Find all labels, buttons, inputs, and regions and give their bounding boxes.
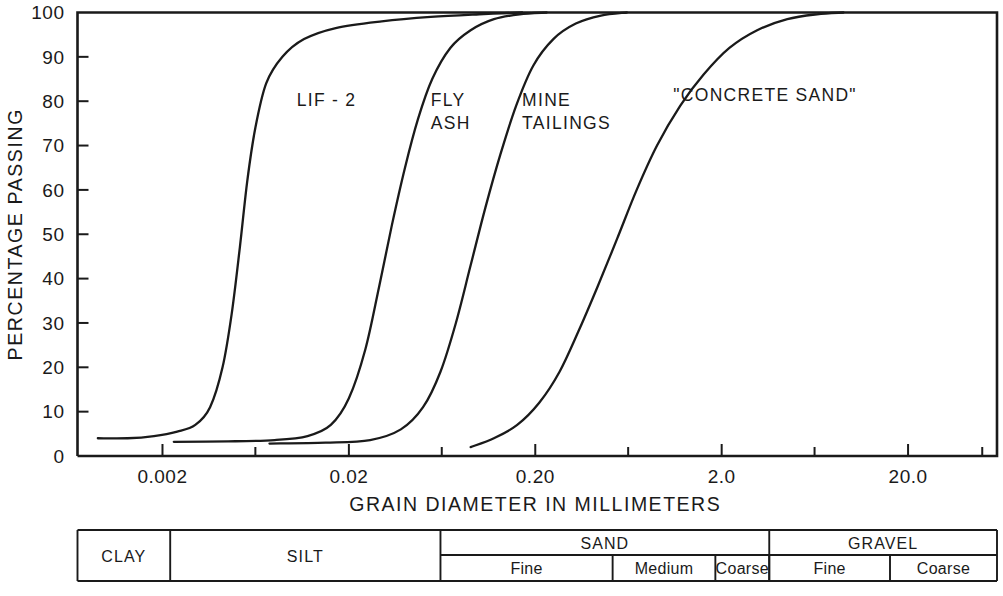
- series-label-group: LIF - 2: [297, 90, 357, 110]
- series-label: ASH: [431, 113, 471, 133]
- y-tick-label: 90: [42, 47, 64, 68]
- series-label: FLY: [431, 90, 466, 110]
- y-tick-label: 20: [42, 357, 64, 378]
- series-label: MINE: [522, 90, 571, 110]
- x-tick-label: 20.0: [889, 466, 928, 487]
- y-tick-label: 50: [42, 224, 64, 245]
- series-label-group: MINETAILINGS: [522, 90, 611, 133]
- y-tick-label: 70: [42, 135, 64, 156]
- curve-group: [98, 13, 844, 448]
- x-tick-label: 0.02: [329, 466, 368, 487]
- y-tick-label: 0: [53, 446, 64, 467]
- series-label-group: FLYASH: [431, 90, 471, 133]
- series-label: TAILINGS: [522, 113, 611, 133]
- y-tick-label: 100: [31, 2, 64, 23]
- table-major-label: SAND: [580, 535, 629, 552]
- x-tick-label: 0.20: [516, 466, 555, 487]
- x-axis-ticks: [162, 444, 982, 456]
- grain-size-distribution-figure: 0102030405060708090100 0.0020.020.202.02…: [0, 0, 1003, 596]
- curve-lif-2: [98, 13, 522, 439]
- table-minor-label: Coarse: [716, 560, 769, 577]
- y-tick-label: 60: [42, 180, 64, 201]
- y-tick-label: 30: [42, 313, 64, 334]
- series-label-group: "CONCRETE SAND": [673, 85, 857, 105]
- table-minor-label: Coarse: [917, 560, 970, 577]
- y-axis-title: PERCENTAGE PASSING: [4, 108, 26, 360]
- table-major-label: CLAY: [101, 548, 146, 565]
- series-label: "CONCRETE SAND": [673, 85, 857, 105]
- x-axis-tick-labels: 0.0020.020.202.020.0: [137, 466, 927, 487]
- y-tick-label: 80: [42, 91, 64, 112]
- y-tick-label: 40: [42, 268, 64, 289]
- y-axis-ticks: [78, 57, 89, 412]
- curve-mine-tailings: [269, 13, 626, 444]
- table-major-label: SILT: [287, 548, 324, 565]
- curve-fly-ash: [174, 13, 547, 442]
- chart-svg: 0102030405060708090100 0.0020.020.202.02…: [0, 0, 1003, 596]
- x-tick-label: 2.0: [708, 466, 736, 487]
- y-axis-tick-labels: 0102030405060708090100: [31, 2, 64, 467]
- table-minor-label: Fine: [510, 560, 542, 577]
- table-minor-label: Medium: [635, 560, 694, 577]
- series-label: LIF - 2: [297, 90, 357, 110]
- soil-classification-table: CLAYSILTSANDGRAVELFineMediumCoarseFineCo…: [78, 530, 998, 581]
- table-minor-label: Fine: [813, 560, 845, 577]
- x-tick-label: 0.002: [137, 466, 187, 487]
- table-major-label: GRAVEL: [848, 535, 918, 552]
- x-axis-title: GRAIN DIAMETER IN MILLIMETERS: [349, 493, 721, 515]
- plot-axes-frame: [78, 13, 998, 457]
- series-annotations: LIF - 2FLYASHMINETAILINGS"CONCRETE SAND": [297, 85, 857, 132]
- y-tick-label: 10: [42, 401, 64, 422]
